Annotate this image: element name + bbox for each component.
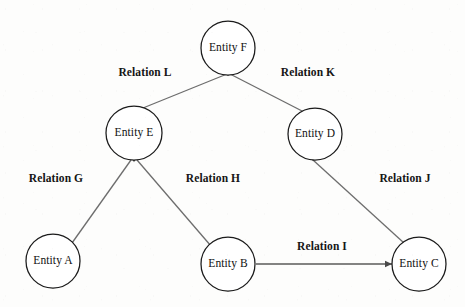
node-d[interactable]: Entity D xyxy=(288,108,342,160)
node-c[interactable]: Entity C xyxy=(392,237,446,291)
node-f[interactable]: Entity F xyxy=(201,21,255,75)
edge-k[interactable] xyxy=(230,74,304,112)
diagram-canvas: Entity FEntity EEntity DEntity AEntity B… xyxy=(0,0,465,307)
node-label-a: Entity A xyxy=(33,254,73,267)
edge-i[interactable] xyxy=(256,261,392,267)
edges-layer xyxy=(72,74,404,267)
nodes-layer: Entity FEntity EEntity DEntity AEntity B… xyxy=(26,21,446,291)
node-label-b: Entity B xyxy=(208,257,248,270)
junction-markers-layer xyxy=(131,71,316,163)
node-label-c: Entity C xyxy=(399,257,439,270)
node-label-e: Entity E xyxy=(115,126,154,139)
edge-label-k: Relation K xyxy=(281,66,335,78)
edge-line-l xyxy=(143,74,227,108)
entity-relation-diagram: Entity FEntity EEntity DEntity AEntity B… xyxy=(0,0,465,307)
edge-label-l: Relation L xyxy=(118,66,171,78)
node-a[interactable]: Entity A xyxy=(26,234,80,288)
edge-label-g: Relation G xyxy=(29,172,83,184)
edge-line-k xyxy=(230,74,304,112)
edge-labels-layer: Relation LRelation KRelation GRelation H… xyxy=(29,66,431,252)
node-b[interactable]: Entity B xyxy=(201,237,255,291)
node-label-f: Entity F xyxy=(209,41,247,54)
edge-label-i: Relation I xyxy=(297,240,347,252)
edge-label-h: Relation H xyxy=(186,172,240,184)
arrow-head-i xyxy=(385,261,392,267)
edge-label-j: Relation J xyxy=(379,172,430,184)
node-e[interactable]: Entity E xyxy=(106,106,162,160)
node-label-d: Entity D xyxy=(295,127,335,140)
edge-l[interactable] xyxy=(143,74,227,108)
